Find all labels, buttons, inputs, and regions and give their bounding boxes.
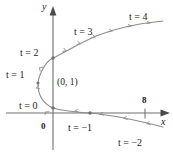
t-label-minus-1: t = −1 <box>68 123 92 133</box>
x-axis-label: x <box>161 117 165 127</box>
t-label-minus-2: t = −2 <box>118 138 142 148</box>
t-label-3: t = 3 <box>74 27 92 37</box>
y-axis <box>50 6 57 150</box>
t-label-2: t = 2 <box>20 48 38 58</box>
parametric-curve-figure: y x 0 8 (0, 1) t = 4 t = 3 t = 2 t = 1 t… <box>0 0 173 155</box>
t-label-4: t = 4 <box>129 12 147 22</box>
x-tick-label-8: 8 <box>142 96 147 105</box>
t-label-1: t = 1 <box>6 70 24 80</box>
point-label-0-1: (0, 1) <box>57 78 78 88</box>
t-label-0: t = 0 <box>19 101 37 111</box>
y-axis-label: y <box>42 2 46 12</box>
origin-label: 0 <box>41 122 46 131</box>
parametric-curve <box>38 21 163 127</box>
